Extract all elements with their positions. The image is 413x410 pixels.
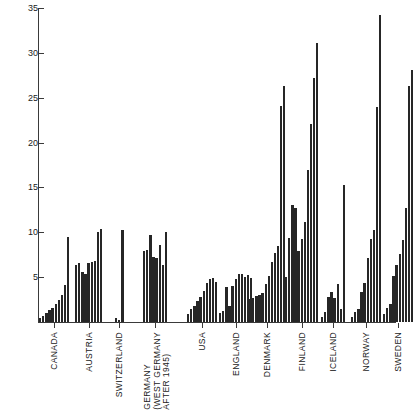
x-axis-label-finland: FINLAND [297, 332, 307, 371]
x-axis-label-austria: AUSTRIA [84, 332, 94, 372]
bar [219, 313, 221, 322]
bar [310, 124, 312, 322]
bar [39, 318, 41, 322]
x-tick-0 [54, 323, 55, 328]
bar [244, 277, 246, 322]
bar [58, 300, 60, 322]
bar [75, 265, 77, 322]
bar [367, 258, 369, 322]
bar [360, 292, 362, 322]
bar [199, 297, 201, 322]
bars-container [39, 8, 396, 322]
x-axis-label-germany-west-germany-after: GERMANY (WEST GERMANY AFTER 1945) [143, 332, 172, 410]
bar [386, 308, 388, 322]
bar [280, 106, 282, 322]
chart-plot-area: 5101520253035 [0, 0, 398, 330]
bar [190, 309, 192, 322]
bar [81, 272, 83, 322]
bar [354, 312, 356, 322]
x-tick-7 [302, 323, 303, 328]
bar [84, 274, 86, 322]
bar [97, 232, 99, 322]
bar [238, 274, 240, 322]
bar [231, 286, 233, 322]
bar [64, 285, 66, 322]
bar [395, 265, 397, 322]
bar [337, 284, 339, 322]
x-tick-4 [202, 323, 203, 328]
bar [327, 297, 329, 322]
bar [405, 208, 407, 322]
x-tick-8 [333, 323, 334, 328]
bar [357, 309, 359, 322]
bar [340, 309, 342, 322]
bar [225, 287, 227, 322]
x-tick-10 [398, 323, 399, 328]
bar [379, 15, 381, 322]
bar [193, 306, 195, 322]
bar [277, 246, 279, 322]
bar [265, 284, 267, 322]
y-tick-label-10: 10 [8, 228, 38, 237]
bar [271, 262, 273, 322]
bar [159, 245, 161, 322]
bar [376, 107, 378, 322]
x-tick-2 [119, 323, 120, 328]
bar [61, 295, 63, 322]
bar [152, 257, 154, 322]
bar [252, 298, 254, 322]
x-tick-5 [236, 323, 237, 328]
bar [343, 185, 345, 322]
bar [228, 306, 230, 322]
bar [389, 304, 391, 322]
x-axis-label-canada: CANADA [49, 332, 59, 370]
x-axis-label-sweden: SWEDEN [393, 332, 403, 372]
y-tick-label-20: 20 [8, 139, 38, 148]
bar [48, 310, 50, 322]
bar [294, 208, 296, 322]
x-axis-label-norway: NORWAY [361, 332, 371, 372]
y-tick-label-5: 5 [8, 273, 38, 282]
y-tick-label-30: 30 [8, 49, 38, 58]
bar [241, 274, 243, 322]
bar [304, 222, 306, 322]
bar [212, 278, 214, 322]
y-tick-label-25: 25 [8, 94, 38, 103]
bar [370, 239, 372, 322]
bar [45, 313, 47, 322]
bar [121, 230, 123, 322]
bar [261, 293, 263, 322]
bar [297, 251, 299, 322]
bar [42, 316, 44, 322]
bar [94, 261, 96, 322]
x-tick-6 [267, 323, 268, 328]
bar [55, 304, 57, 322]
bar [162, 265, 164, 322]
bar [115, 318, 117, 322]
bar [235, 279, 237, 322]
bar [100, 229, 102, 322]
bar [255, 296, 257, 322]
bar [78, 263, 80, 322]
bar [203, 291, 205, 322]
bar [330, 292, 332, 322]
bar [91, 262, 93, 322]
bar [408, 86, 410, 322]
bar [392, 276, 394, 322]
bar [155, 258, 157, 322]
bar [301, 239, 303, 322]
x-axis-labels: CANADAAUSTRIASWITZERLANDGERMANY (WEST GE… [0, 330, 398, 407]
bar [67, 237, 69, 322]
bar [383, 314, 385, 322]
bar [149, 235, 151, 322]
x-axis-label-denmark: DENMARK [262, 332, 272, 377]
bar [316, 43, 318, 322]
x-axis-line [38, 322, 396, 323]
bar [351, 317, 353, 322]
bar [165, 232, 167, 322]
x-tick-9 [366, 323, 367, 328]
bar [143, 251, 145, 322]
x-axis-label-switzerland: SWITZERLAND [114, 332, 124, 397]
x-axis-label-iceland: ICELAND [328, 332, 338, 372]
